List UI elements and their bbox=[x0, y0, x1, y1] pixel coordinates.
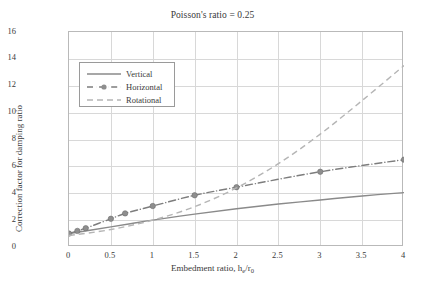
x-tick-label: 2 bbox=[216, 250, 256, 260]
legend-label-rotational: Rotational bbox=[123, 95, 161, 105]
data-point-marker bbox=[192, 193, 197, 198]
x-axis-label-prefix: Embedment ratio, h bbox=[171, 263, 242, 273]
data-point-marker bbox=[318, 169, 323, 174]
legend: Vertical Horizontal Rotational bbox=[79, 62, 175, 107]
x-tick-label: 4 bbox=[383, 250, 423, 260]
y-tick-label: 12 bbox=[0, 79, 16, 89]
legend-symbol-rotational bbox=[85, 94, 123, 106]
y-tick-label: 16 bbox=[0, 26, 16, 36]
data-point-marker bbox=[401, 157, 404, 162]
x-axis-label: Embedment ratio, he/r0 bbox=[0, 263, 425, 274]
x-tick-label: 2.5 bbox=[257, 250, 297, 260]
x-tick-label: 1 bbox=[132, 250, 172, 260]
y-axis-label: Correction factor for damping ratio bbox=[14, 105, 24, 232]
legend-item-horizontal: Horizontal bbox=[85, 80, 169, 93]
data-point-marker bbox=[75, 228, 80, 233]
x-tick-label: 0 bbox=[48, 250, 88, 260]
legend-label-horizontal: Horizontal bbox=[123, 82, 162, 92]
x-tick-label: 3.5 bbox=[341, 250, 381, 260]
y-tick-label: 0 bbox=[0, 241, 16, 251]
legend-symbol-horizontal bbox=[85, 81, 123, 93]
legend-label-vertical: Vertical bbox=[123, 69, 152, 79]
data-point-marker bbox=[108, 216, 113, 221]
chart-title: Poisson's ratio = 0.25 bbox=[0, 10, 425, 20]
legend-item-vertical: Vertical bbox=[85, 67, 169, 80]
y-tick-label: 14 bbox=[0, 52, 16, 62]
data-point-marker bbox=[83, 225, 88, 230]
x-tick-label: 0.5 bbox=[90, 250, 130, 260]
x-axis-label-sub-0: 0 bbox=[251, 267, 254, 274]
data-point-marker bbox=[122, 211, 127, 216]
chart-container: Poisson's ratio = 0.25 0246810121416 00.… bbox=[0, 0, 425, 290]
x-tick-label: 1.5 bbox=[174, 250, 214, 260]
data-point-marker bbox=[150, 203, 155, 208]
legend-item-rotational: Rotational bbox=[85, 93, 169, 106]
legend-symbol-vertical bbox=[85, 68, 123, 80]
x-tick-label: 3 bbox=[299, 250, 339, 260]
